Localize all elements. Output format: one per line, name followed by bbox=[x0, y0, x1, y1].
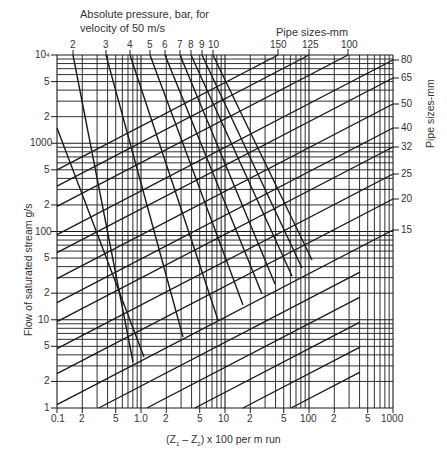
y-axis-label: Flow of saturated stream g/s bbox=[22, 204, 34, 336]
pipe-size-label: 40 bbox=[401, 123, 412, 133]
y-tick-label: 2 bbox=[44, 288, 50, 298]
pipe-size-label: 32 bbox=[401, 142, 412, 152]
pipe-top-title: Pipe sizes-mm bbox=[276, 26, 348, 39]
pipe-size-label: 50 bbox=[401, 99, 412, 109]
pressure-label: 10 bbox=[208, 40, 219, 50]
pressure-label: 9 bbox=[199, 40, 205, 50]
y-tick-label: 100 bbox=[35, 227, 52, 237]
pipe-size-line bbox=[195, 322, 360, 408]
pressure-line bbox=[213, 55, 312, 260]
pressure-label: 8 bbox=[188, 40, 194, 50]
x-tick-label: 2 bbox=[163, 414, 169, 424]
x-tick-label: 0.1 bbox=[51, 414, 65, 424]
y-tick-label: 5 bbox=[44, 165, 50, 175]
chart-title-line1: Absolute pressure, bar, for bbox=[80, 8, 209, 21]
y-tick-label: 5 bbox=[44, 77, 50, 87]
x-tick-label: 5 bbox=[113, 414, 119, 424]
y-tick-label: 2 bbox=[44, 112, 50, 122]
pipe-right-title: Pipe sizes-mm bbox=[424, 79, 436, 148]
x-tick-label: 5 bbox=[365, 414, 371, 424]
pipe-size-label: 25 bbox=[401, 169, 412, 179]
y-tick-label: 1 bbox=[44, 403, 50, 413]
y-tick-label: 2 bbox=[44, 376, 50, 386]
y-tick-label: 2 bbox=[44, 200, 50, 210]
pipe-size-label: 150 bbox=[270, 40, 287, 50]
chart-plot bbox=[0, 0, 447, 462]
x-tick-label: 2 bbox=[331, 414, 337, 424]
chart-title-line2: velocity of 50 m/s bbox=[80, 22, 165, 35]
pipe-size-label: 15 bbox=[401, 225, 412, 235]
pressure-label: 6 bbox=[162, 40, 168, 50]
x-axis-label: (Z1 – Z2) x 100 per m run bbox=[166, 433, 281, 447]
x-tick-label: 2 bbox=[247, 414, 253, 424]
pipe-size-line bbox=[57, 55, 278, 170]
x-tick-label: 2 bbox=[79, 414, 85, 424]
pressure-line bbox=[57, 128, 144, 357]
x-tick-label: 5 bbox=[281, 414, 287, 424]
pipe-size-label: 80 bbox=[401, 55, 412, 65]
y-tick-label: 5 bbox=[44, 341, 50, 351]
y-tick-label: 104 bbox=[35, 50, 49, 60]
pipe-size-line bbox=[243, 347, 360, 408]
pipe-size-line bbox=[57, 55, 348, 206]
y-tick-label: 10 bbox=[38, 315, 49, 325]
pressure-line bbox=[130, 55, 218, 320]
pipe-size-label: 100 bbox=[341, 40, 358, 50]
pipe-size-line bbox=[147, 297, 360, 408]
y-tick-label: 1000 bbox=[30, 138, 52, 148]
pipe-size-label: 65 bbox=[401, 73, 412, 83]
pressure-label: 3 bbox=[103, 40, 109, 50]
pipe-size-label: 125 bbox=[302, 40, 319, 50]
x-tick-label: 1000 bbox=[381, 414, 403, 424]
x-tick-label: 5 bbox=[197, 414, 203, 424]
x-tick-label: 100 bbox=[300, 414, 317, 424]
y-tick-label: 5 bbox=[44, 253, 50, 263]
x-tick-label: 1.0 bbox=[134, 414, 148, 424]
pressure-label: 7 bbox=[177, 40, 183, 50]
pressure-label: 2 bbox=[70, 40, 76, 50]
pipe-size-label: 20 bbox=[401, 194, 412, 204]
pressure-label: 4 bbox=[127, 40, 133, 50]
pressure-label: 5 bbox=[147, 40, 153, 50]
x-tick-label: 10 bbox=[218, 414, 229, 424]
